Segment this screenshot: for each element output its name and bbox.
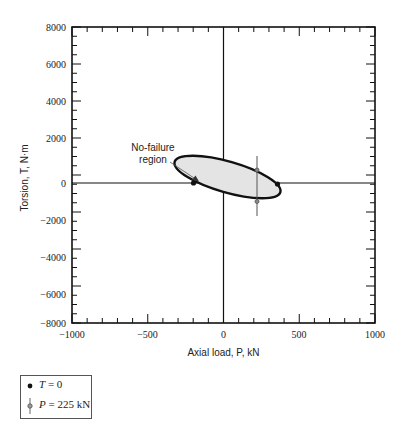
filled-dot-icon [28, 384, 33, 389]
y-tick-label: −8000 [40, 318, 66, 329]
annotation-line2: region [139, 154, 167, 165]
x-tick-label: −1000 [59, 329, 85, 340]
t0-point-left [191, 180, 196, 185]
legend: T = 0 P = 225 kN [20, 375, 92, 419]
x-axis-title: Axial load, P, kN [187, 347, 259, 358]
y-tick-label: 6000 [46, 59, 66, 70]
legend-t-rest: = 0 [45, 378, 62, 390]
open-dot-icon [28, 404, 32, 408]
legend-p-rest: = 225 kN [46, 398, 90, 410]
y-tick-label: −6000 [40, 289, 66, 300]
p225-point-upper [255, 168, 259, 172]
no-failure-ellipse [170, 147, 284, 207]
y-axis-title: Torsion, T, N·m [19, 144, 30, 211]
x-tick-label: −500 [137, 329, 158, 340]
y-tick-label: 8000 [46, 22, 66, 33]
x-tick-label: 0 [221, 329, 226, 340]
annotation-line1: No-failure [131, 142, 175, 153]
y-tick-label: 0 [61, 178, 66, 189]
p225-point-lower [255, 200, 259, 204]
y-tick-label: −2000 [40, 215, 66, 226]
legend-entry-t0: T = 0 [39, 378, 62, 390]
y-tick-label: −4000 [40, 252, 66, 263]
chart: No-failure region 8000 6000 4000 2000 0 … [0, 0, 401, 434]
x-tick-label: 1000 [365, 329, 385, 340]
legend-entry-p225: P = 225 kN [39, 398, 90, 410]
x-tick-label: 500 [292, 329, 307, 340]
t0-point-right [275, 181, 280, 186]
legend-p-var: P [39, 398, 46, 410]
y-tick-label: 4000 [46, 96, 66, 107]
y-tick-label: 2000 [46, 133, 66, 144]
